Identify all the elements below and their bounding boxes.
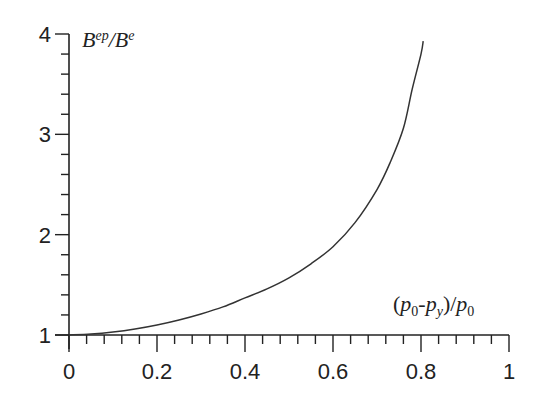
y-tick-label: 4 (39, 22, 51, 47)
x-tick-label: 0 (63, 359, 75, 384)
data-curve (69, 41, 423, 335)
y-tick-label: 2 (39, 223, 51, 248)
x-tick-label: 0.4 (230, 359, 261, 384)
x-tick-label: 0.6 (318, 359, 349, 384)
x-tick-label: 1 (503, 359, 515, 384)
x-tick-label: 0.8 (406, 359, 437, 384)
y-tick-label: 3 (39, 122, 51, 147)
chart: 123400.20.40.60.81 Bep/Be (p0-py)/p0 (0, 0, 535, 415)
tick-labels: 123400.20.40.60.81 (39, 22, 515, 384)
y-tick-label: 1 (39, 323, 51, 348)
x-axis-title: (p0-py)/p0 (393, 291, 474, 319)
x-tick-label: 0.2 (142, 359, 173, 384)
y-axis-title: Bep/Be (82, 27, 134, 52)
